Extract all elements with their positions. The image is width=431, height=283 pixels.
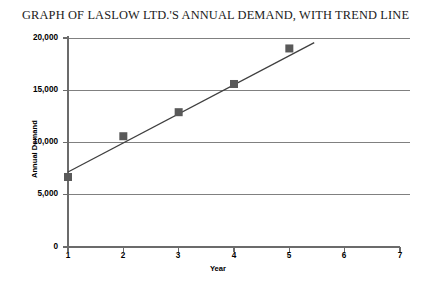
- axis-lines: [68, 36, 400, 247]
- data-point-marker: [230, 80, 238, 88]
- data-point-marker: [285, 44, 293, 52]
- gridlines: [68, 38, 410, 195]
- chart-plot-area: [0, 0, 431, 283]
- chart-container: GRAPH OF LASLOW LTD.'S ANNUAL DEMAND, WI…: [0, 0, 431, 283]
- y-axis-ticks: [63, 38, 68, 247]
- trend-line: [68, 43, 314, 172]
- data-point-marker: [119, 132, 127, 140]
- data-point-marker: [175, 108, 183, 116]
- data-point-markers: [64, 44, 293, 181]
- x-axis-ticks: [68, 247, 400, 252]
- data-point-marker: [64, 173, 72, 181]
